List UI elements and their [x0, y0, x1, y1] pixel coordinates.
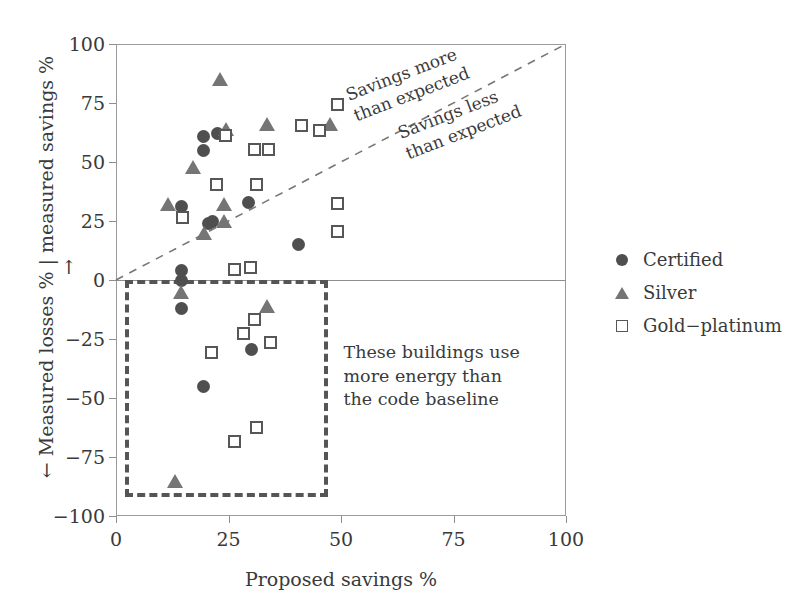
- certified-point-marker: [242, 196, 255, 209]
- legend-item-label: Certified: [643, 249, 723, 270]
- gold-platinum-point-marker: [228, 435, 241, 448]
- gold-platinum-point-marker: [237, 327, 250, 340]
- certified-legend-icon: [612, 250, 632, 270]
- gold-platinum-legend-icon: [612, 316, 632, 336]
- y-axis-tick-label: 100: [69, 33, 105, 55]
- silver-point-marker: [212, 72, 228, 86]
- x-axis-tick-label: 0: [110, 528, 122, 550]
- y-axis-label: ← Measured losses % | measured savings %…: [35, 47, 79, 487]
- x-axis-tick-label: 75: [441, 528, 465, 550]
- silver-point-marker: [167, 474, 183, 488]
- y-axis-tick: [109, 162, 116, 163]
- callout-dashed-box: [125, 280, 328, 497]
- scatter-plot-figure: ← Measured losses % | measured savings %…: [0, 0, 792, 605]
- x-axis-tick-label: 25: [216, 528, 240, 550]
- silver-point-marker: [216, 197, 232, 211]
- gold-platinum-point-marker: [210, 178, 223, 191]
- y-axis-tick-label: −50: [65, 387, 105, 409]
- certified-point-marker: [197, 380, 210, 393]
- y-axis-tick: [109, 516, 116, 517]
- y-axis-tick-label: −100: [53, 505, 105, 527]
- legend-item-label: Silver: [643, 282, 696, 303]
- certified-point-marker: [197, 144, 210, 157]
- gold-platinum-point-marker: [176, 211, 189, 224]
- silver-legend-icon: [612, 283, 632, 303]
- gold-platinum-point-marker: [250, 421, 263, 434]
- silver-point-marker: [216, 214, 232, 228]
- legend: CertifiedSilverGold−platinum: [612, 243, 782, 342]
- y-axis-tick-label: 75: [81, 92, 105, 114]
- y-axis-tick: [109, 339, 116, 340]
- y-axis-tick-label: 0: [93, 269, 105, 291]
- gold-platinum-point-marker: [313, 124, 326, 137]
- callout-text: These buildings use more energy than the…: [344, 341, 520, 411]
- gold-platinum-point-marker: [219, 129, 232, 142]
- gold-platinum-point-marker: [295, 119, 308, 132]
- legend-item-silver[interactable]: Silver: [612, 276, 782, 309]
- x-axis-tick: [341, 516, 342, 523]
- y-axis-tick: [109, 398, 116, 399]
- x-axis-tick: [116, 516, 117, 523]
- legend-item-label: Gold−platinum: [643, 315, 782, 336]
- gold-platinum-point-marker: [262, 143, 275, 156]
- y-axis-tick: [109, 280, 116, 281]
- gold-platinum-point-marker: [331, 225, 344, 238]
- gold-platinum-point-marker: [248, 313, 261, 326]
- x-axis-tick: [454, 516, 455, 523]
- gold-platinum-point-marker: [228, 263, 241, 276]
- silver-point-marker: [259, 117, 275, 131]
- silver-point-marker: [196, 226, 212, 240]
- gold-platinum-point-marker: [248, 143, 261, 156]
- gold-platinum-point-marker: [264, 336, 277, 349]
- legend-item-certified[interactable]: Certified: [612, 243, 782, 276]
- gold-platinum-point-marker: [250, 178, 263, 191]
- gold-platinum-point-marker: [331, 98, 344, 111]
- certified-point-marker: [245, 343, 258, 356]
- y-axis-tick: [109, 103, 116, 104]
- x-axis-tick: [566, 516, 567, 523]
- certified-point-marker: [197, 130, 210, 143]
- x-axis-tick-label: 50: [329, 528, 353, 550]
- y-axis-tick: [109, 44, 116, 45]
- y-axis-tick-label: −75: [65, 446, 105, 468]
- certified-point-marker: [175, 302, 188, 315]
- y-axis-tick: [109, 457, 116, 458]
- plot-area: 1007550250−25−50−75−1000255075100These b…: [116, 44, 566, 516]
- y-axis-tick: [109, 221, 116, 222]
- certified-point-marker: [292, 238, 305, 251]
- y-axis-tick-label: 50: [81, 151, 105, 173]
- silver-point-marker: [160, 197, 176, 211]
- y-axis-tick-label: −25: [65, 328, 105, 350]
- gold-platinum-point-marker: [331, 197, 344, 210]
- plot-top-border: [116, 44, 566, 45]
- y-axis-tick-label: 25: [81, 210, 105, 232]
- silver-point-marker: [185, 160, 201, 174]
- silver-point-marker: [173, 285, 189, 299]
- legend-item-gold-platinum[interactable]: Gold−platinum: [612, 309, 782, 342]
- silver-point-marker: [259, 299, 275, 313]
- x-axis-tick: [229, 516, 230, 523]
- x-axis-label: Proposed savings %: [116, 568, 566, 590]
- x-axis-tick-label: 100: [548, 528, 584, 550]
- gold-platinum-point-marker: [205, 346, 218, 359]
- gold-platinum-point-marker: [244, 261, 257, 274]
